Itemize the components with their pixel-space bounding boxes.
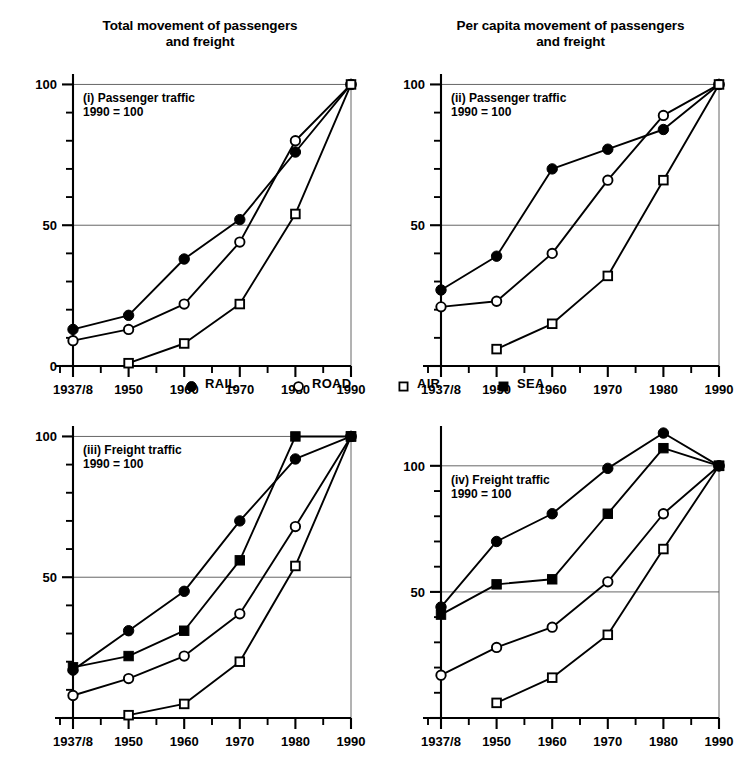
open-square-marker <box>236 300 245 309</box>
chart-panel-i: 0501001937/819501960197019801990(i) Pass… <box>0 56 383 408</box>
open-circle-marker <box>659 509 668 518</box>
chart-panel-iii: 501001937/819501960197019801990(iii) Fre… <box>0 408 383 760</box>
filled-square-marker <box>291 432 300 441</box>
open-circle-marker <box>436 302 445 311</box>
filled-circle-marker <box>187 381 197 391</box>
open-circle-marker <box>603 175 612 184</box>
open-circle-marker <box>548 249 557 258</box>
legend-item-rail[interactable]: RAIL <box>185 377 237 391</box>
legend-item-sea[interactable]: SEA <box>497 377 545 391</box>
open-circle-marker <box>180 651 189 660</box>
filled-circle-marker <box>123 310 133 320</box>
panel-annotation: (iv) Freight traffic1990 = 100 <box>451 473 550 501</box>
y-tick-label: 100 <box>35 77 57 92</box>
y-tick-label: 50 <box>411 218 425 233</box>
series-line <box>73 84 351 340</box>
y-tick-label: 50 <box>43 218 57 233</box>
series-group <box>68 431 356 719</box>
open-circle-marker <box>291 522 300 531</box>
series-group <box>436 428 724 707</box>
plot-frame <box>423 426 719 718</box>
filled-circle-marker <box>491 251 501 261</box>
filled-circle-marker <box>179 586 189 596</box>
x-tick-label: 1970 <box>593 734 622 749</box>
chart-legend: RAILROADAIRSEA <box>0 377 751 399</box>
legend-label: RAIL <box>205 377 237 391</box>
open-square-marker <box>124 711 133 720</box>
filled-circle-marker <box>603 144 613 154</box>
open-square-marker <box>347 80 356 89</box>
panel-annotation: (iii) Freight traffic1990 = 100 <box>83 443 182 471</box>
y-axis-ticks <box>430 84 441 366</box>
open-square-marker <box>715 80 724 89</box>
left-title-line-2: and freight <box>30 34 370 50</box>
open-circle-marker <box>235 237 244 246</box>
x-tick-label: 1990 <box>337 734 366 749</box>
filled-square-marker <box>548 575 557 584</box>
panel-label: (iii) Freight traffic <box>83 443 182 457</box>
open-circle-marker <box>436 670 445 679</box>
x-tick-label: 1990 <box>705 734 734 749</box>
panel-label: (ii) Passenger traffic <box>451 91 567 105</box>
open-square-marker <box>492 345 501 354</box>
filled-square-marker <box>659 443 668 452</box>
series-rail <box>436 428 724 612</box>
y-axis-tick-labels: 50100 <box>403 459 425 600</box>
y-tick-label: 50 <box>411 585 425 600</box>
x-axis-ticks <box>60 718 351 729</box>
filled-circle-marker <box>235 214 245 224</box>
filled-circle-marker <box>658 124 668 134</box>
figure-root: Total movement of passengers and freight… <box>0 0 751 767</box>
panel-note: 1990 = 100 <box>451 487 512 501</box>
open-square-marker <box>180 700 189 709</box>
open-circle-marker <box>235 609 244 618</box>
series-air <box>124 432 355 719</box>
x-axis-tick-labels: 1937/819501960197019801990 <box>421 734 733 749</box>
filled-square-marker <box>346 432 355 441</box>
open-circle-marker <box>291 136 300 145</box>
y-axis-ticks <box>62 84 73 366</box>
x-tick-label: 1937/8 <box>421 734 461 749</box>
filled-circle-marker <box>235 516 245 526</box>
legend-item-road[interactable]: ROAD <box>292 377 351 391</box>
x-tick-label: 1950 <box>114 734 143 749</box>
x-tick-label: 1980 <box>281 734 310 749</box>
filled-square-marker <box>714 461 723 470</box>
panel-i-svg: 0501001937/819501960197019801990(i) Pass… <box>0 56 383 408</box>
panel-label: (iv) Freight traffic <box>451 473 550 487</box>
open-square-marker <box>659 176 668 185</box>
open-circle-marker <box>180 299 189 308</box>
y-axis-ticks <box>62 436 73 718</box>
y-axis-tick-labels: 050100 <box>35 77 57 374</box>
filled-square-marker <box>603 509 612 518</box>
open-square-icon <box>397 379 408 390</box>
open-square-marker <box>604 272 613 281</box>
legend-label: ROAD <box>312 377 351 391</box>
right-title-line-1: Per capita movement of passengers <box>398 18 743 34</box>
filled-square-marker <box>499 382 508 391</box>
filled-circle-marker <box>547 509 557 519</box>
open-circle-marker <box>294 382 303 391</box>
filled-circle-marker <box>436 285 446 295</box>
filled-square-marker <box>124 651 133 660</box>
x-tick-label: 1980 <box>649 734 678 749</box>
open-circle-marker <box>659 111 668 120</box>
filled-circle-marker <box>123 626 133 636</box>
filled-square-marker <box>492 580 501 589</box>
series-line <box>73 436 351 695</box>
chart-panel-iv: 501001937/819501960197019801990(iv) Frei… <box>368 408 751 760</box>
panel-note: 1990 = 100 <box>451 105 512 119</box>
legend-item-air[interactable]: AIR <box>397 377 440 391</box>
series-line <box>441 433 719 607</box>
filled-circle-marker <box>179 254 189 264</box>
panel-ii-svg: 501001937/819501960197019801990(ii) Pass… <box>368 56 751 408</box>
x-axis-ticks <box>428 718 719 729</box>
filled-square-marker <box>68 663 77 672</box>
panel-iii-svg: 501001937/819501960197019801990(iii) Fre… <box>0 408 383 760</box>
open-circle-marker <box>603 577 612 586</box>
open-square-marker <box>492 699 501 708</box>
open-square-marker <box>548 673 557 682</box>
open-square-marker <box>180 339 189 348</box>
legend-label: SEA <box>517 377 545 391</box>
filled-square-marker <box>180 626 189 635</box>
